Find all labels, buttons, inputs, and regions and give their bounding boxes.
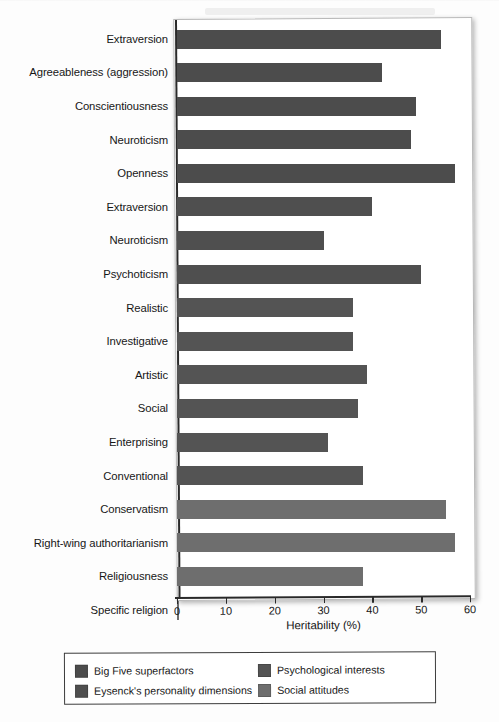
legend-item: Big Five superfactors xyxy=(75,663,252,677)
bar-row: Enterprising xyxy=(0,425,499,459)
bar xyxy=(177,164,455,183)
bar-row: Conscientiousness xyxy=(0,89,499,123)
bar-row-label: Agreeableness (aggression) xyxy=(0,66,175,78)
bar-row-label: Realistic xyxy=(0,302,175,314)
bar-row: Agreeableness (aggression) xyxy=(0,56,499,90)
bar-row-label: Openness xyxy=(0,167,175,179)
bar xyxy=(177,63,382,82)
bar xyxy=(177,130,411,149)
bar xyxy=(177,500,446,519)
x-axis-tick xyxy=(470,596,471,602)
legend-item: Psychological interests xyxy=(258,663,425,677)
x-axis-tick xyxy=(323,597,324,603)
bar-row: Openness xyxy=(0,156,499,190)
bar xyxy=(177,567,363,586)
bar-row-label: Extraversion xyxy=(0,201,175,213)
x-axis-tick-label: 40 xyxy=(366,604,378,616)
bar-row: Psychoticism xyxy=(0,257,499,291)
x-axis-tick xyxy=(421,596,422,602)
bar-row-label: Artistic xyxy=(0,369,175,381)
bar-row-label: Social xyxy=(0,402,175,414)
bar-row-label: Specific religion xyxy=(0,604,175,616)
bar-rows: ExtraversionAgreeableness (aggression)Co… xyxy=(0,22,499,594)
bar-track xyxy=(175,392,499,426)
bar-track xyxy=(175,89,499,123)
x-axis-tick xyxy=(275,597,276,603)
bar-track xyxy=(175,425,499,459)
bar-row-label: Psychoticism xyxy=(0,268,175,280)
bar-row-label: Conscientiousness xyxy=(0,100,175,112)
bar-row-label: Enterprising xyxy=(0,436,175,448)
bar-track xyxy=(175,560,499,594)
bar-row-label: Neuroticism xyxy=(0,234,175,246)
bar-row: Investigative xyxy=(0,324,499,358)
x-axis-tick-label: 50 xyxy=(415,603,427,615)
x-axis-tick xyxy=(372,597,373,603)
bar-row: Artistic xyxy=(0,358,499,392)
bar-row-label: Right-wing authoritarianism xyxy=(0,537,175,549)
bar xyxy=(177,466,363,485)
bar-row: Conventional xyxy=(0,459,499,493)
bar xyxy=(177,298,353,317)
x-axis-tick-label: 30 xyxy=(317,604,329,616)
bar-track xyxy=(175,526,499,560)
bar-track xyxy=(175,156,499,190)
bar-row-label: Extraversion xyxy=(0,33,175,45)
bar-row: Conservatism xyxy=(0,492,499,526)
legend-swatch-icon xyxy=(258,663,271,676)
bar xyxy=(177,433,328,452)
bar-track xyxy=(175,492,499,526)
legend-item: Eysenck's personality dimensions xyxy=(75,683,252,697)
bar-row-label: Religiousness xyxy=(0,570,175,582)
bar-row: Extraversion xyxy=(0,22,499,56)
bar xyxy=(177,365,367,384)
legend-swatch-icon xyxy=(258,683,271,696)
bar xyxy=(177,197,372,216)
bar-track xyxy=(175,324,499,358)
x-axis-tick-label: 10 xyxy=(220,605,232,617)
bar-track xyxy=(175,56,499,90)
legend-label: Social attitudes xyxy=(277,684,349,696)
legend-swatch-icon xyxy=(75,684,88,697)
bar-row: Right-wing authoritarianism xyxy=(0,526,499,560)
bar-row-label: Neuroticism xyxy=(0,134,175,146)
bar xyxy=(177,30,441,49)
bar-row: Social xyxy=(0,392,499,426)
bar xyxy=(177,265,421,284)
bar-track xyxy=(175,459,499,493)
legend-swatch-icon xyxy=(75,664,88,677)
x-axis-tick-label: 60 xyxy=(464,603,476,615)
bar-row: Neuroticism xyxy=(0,224,499,258)
x-axis-tick xyxy=(226,598,227,604)
bar-row-label: Conservatism xyxy=(0,503,175,515)
x-axis-tick-label: 0 xyxy=(174,605,180,617)
legend-item: Social attitudes xyxy=(258,683,425,697)
legend-label: Eysenck's personality dimensions xyxy=(94,684,252,697)
bar-track xyxy=(175,257,499,291)
bar-row: Extraversion xyxy=(0,190,499,224)
bar-track xyxy=(175,22,499,56)
bar xyxy=(177,231,324,250)
bar xyxy=(177,399,358,418)
bar-row-label: Investigative xyxy=(0,335,175,347)
heritability-bar-chart-figure: ExtraversionAgreeableness (aggression)Co… xyxy=(0,0,499,722)
x-axis-tick-label: 20 xyxy=(269,604,281,616)
bar-track xyxy=(175,190,499,224)
bar-row: Neuroticism xyxy=(0,123,499,157)
x-axis-label: Heritability (%) xyxy=(175,618,472,632)
bar-track xyxy=(175,358,499,392)
bar-track xyxy=(175,291,499,325)
bar-row-label: Conventional xyxy=(0,470,175,482)
bar xyxy=(177,533,455,552)
x-axis-tick xyxy=(177,598,178,604)
legend-label: Big Five superfactors xyxy=(94,664,194,676)
bar xyxy=(177,97,416,116)
legend-label: Psychological interests xyxy=(277,663,385,675)
bar-track xyxy=(175,224,499,258)
bar xyxy=(177,332,353,351)
chart-legend: Big Five superfactorsPsychological inter… xyxy=(64,651,436,705)
bar-row: Realistic xyxy=(0,291,499,325)
bar-track xyxy=(175,123,499,157)
bar-row: Religiousness xyxy=(0,560,499,594)
